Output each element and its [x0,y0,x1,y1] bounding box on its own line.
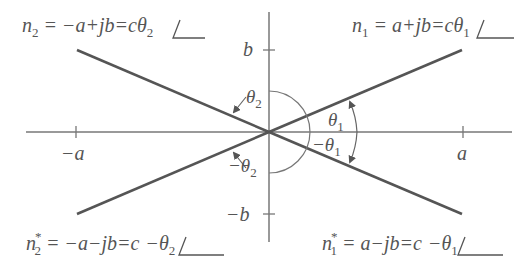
equation-n2: n2 = −a+jb=cθ2 [22,14,205,40]
angle-symbol-n1-conjugate [458,237,503,255]
label-neg-b: −b [226,203,250,225]
angle-symbol-n1 [477,20,514,38]
label-pos-b: b [243,38,253,60]
angle-symbol-n2 [173,20,205,38]
theta1-arc-lower [350,132,357,162]
label-neg-a: −a [61,142,85,164]
equation-n2-conjugate: n*2 = −a−jb=c−θ2 [26,229,224,258]
svg-text:n2 = −a+jb=cθ2: n2 = −a+jb=cθ2 [22,14,153,40]
complex-plane-diagram: −a a b −b θ1 −θ1 θ2 −θ2 n1 = a+jb=cθ1 n2… [0,0,528,272]
svg-text:n*2 = −a−jb=c−θ2: n*2 = −a−jb=c−θ2 [26,229,175,258]
vector-n1 [269,50,462,132]
vector-n2 [77,50,269,132]
label-theta2: θ2 [246,86,262,111]
theta1-arc-upper [350,102,357,132]
vector-n1-conjugate [269,132,462,214]
equation-n1: n1 = a+jb=cθ1 [352,14,514,40]
svg-text:n1 = a+jb=cθ1: n1 = a+jb=cθ1 [352,14,470,40]
label-pos-a: a [457,142,467,164]
equation-n1-conjugate: n*1 = a−jb=c−θ1 [322,229,503,258]
theta2-pointer-arrow [234,97,246,112]
angle-symbol-n2-conjugate [179,237,224,255]
svg-text:n*1 = a−jb=c−θ1: n*1 = a−jb=c−θ1 [322,229,458,258]
label-theta1: θ1 [328,109,344,134]
label-neg-theta2: −θ2 [228,155,257,180]
